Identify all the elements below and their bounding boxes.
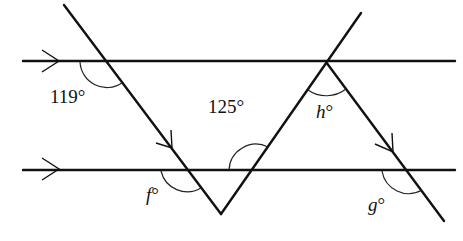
angle-arc-h [308, 89, 346, 96]
angle-label-f: f° [146, 184, 159, 205]
left-transversal [64, 5, 221, 214]
angle-label-h: h° [316, 101, 333, 122]
geometry-diagram: 119° 125° h° f° g° [0, 0, 463, 241]
angle-label-119: 119° [50, 86, 85, 107]
angle-label-125: 125° [208, 96, 244, 117]
angle-arc-125 [229, 144, 268, 170]
angle-label-g: g° [368, 194, 385, 215]
